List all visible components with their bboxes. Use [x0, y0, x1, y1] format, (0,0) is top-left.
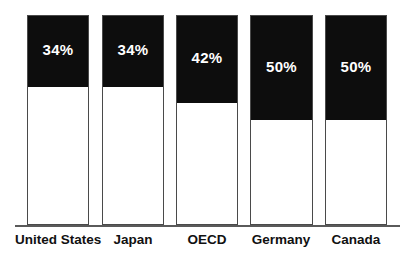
bar-segment-empty-united-states [28, 87, 88, 224]
category-axis-labels: United States Japan OECD Germany Canada [0, 230, 415, 256]
bar-japan: 34% [102, 15, 164, 225]
bar-segment-filled-united-states: 34% [28, 16, 88, 87]
bar-canada: 50% [325, 15, 387, 225]
bar-value-label-united-states: 34% [43, 42, 74, 57]
bar-value-label-japan: 34% [118, 42, 149, 57]
bar-segment-empty-canada [326, 120, 386, 224]
bar-segment-empty-germany [251, 120, 312, 224]
plot-area: 34% 34% 42% 50% 50% [0, 0, 415, 226]
bar-value-label-germany: 50% [266, 59, 297, 74]
bar-segment-empty-japan [103, 87, 163, 224]
axis-label-oecd: OECD [176, 230, 238, 250]
axis-label-canada: Canada [325, 230, 387, 250]
bar-value-label-oecd: 42% [192, 50, 223, 65]
bar-germany: 50% [250, 15, 313, 225]
bar-value-label-canada: 50% [341, 59, 372, 74]
bar-united-states: 34% [27, 15, 89, 225]
category-axis-line [15, 225, 400, 227]
bar-segment-empty-oecd [177, 103, 237, 224]
axis-label-germany: Germany [248, 230, 314, 250]
bar-segment-filled-germany: 50% [251, 16, 312, 120]
axis-label-united-states: United States [15, 230, 101, 250]
stacked-bar-chart: 34% 34% 42% 50% 50% [0, 0, 415, 264]
bar-segment-filled-oecd: 42% [177, 16, 237, 103]
bar-segment-filled-canada: 50% [326, 16, 386, 120]
bar-segment-filled-japan: 34% [103, 16, 163, 87]
axis-label-japan: Japan [102, 230, 164, 250]
bar-oecd: 42% [176, 15, 238, 225]
